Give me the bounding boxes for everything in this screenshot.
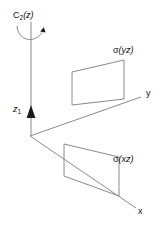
rotation-axis-label: C2(z) xyxy=(13,10,34,21)
sigma-xz-plane xyxy=(64,144,119,196)
sigma-xz-argument: (xz) xyxy=(119,154,134,164)
up-arrowhead-icon xyxy=(27,105,36,118)
z-axis-subscript: 1 xyxy=(18,108,22,115)
sigma-yz-label: σ(yz) xyxy=(113,45,134,55)
sigma-xz-label: σ(xz) xyxy=(113,154,134,164)
rotation-axis-argument: (z) xyxy=(23,10,34,20)
z-axis-label: z1 xyxy=(12,104,22,115)
y-axis-label: y xyxy=(146,88,151,98)
sigma-yz-plane xyxy=(72,60,124,105)
sigma-yz-argument: (yz) xyxy=(119,45,134,55)
x-axis-line xyxy=(30,136,136,208)
symmetry-elements-figure: C2(z) z1 y x σ(yz) σ(xz) xyxy=(0,0,168,225)
curved-rotation-arrow-icon xyxy=(17,26,43,40)
chemistry-symmetry-diagram: C2(z) z1 y x σ(yz) σ(xz) xyxy=(0,0,168,225)
rotation-arrowhead-icon xyxy=(40,27,45,32)
y-axis-line xyxy=(30,97,141,136)
x-axis-label: x xyxy=(138,206,143,216)
